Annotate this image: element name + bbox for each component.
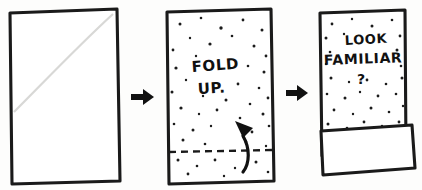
fold-up-diagram: FOLD UP. [0, 0, 422, 190]
panel-2-text-line-2: UP. [197, 79, 226, 98]
right-arrow-icon-2 [286, 85, 308, 101]
diagram-canvas: FOLD UP. [0, 0, 422, 190]
panel-1-sheet-outline [10, 9, 120, 184]
arrow-2-group [286, 85, 308, 101]
panel-2-fold-up-sheet: FOLD UP. [167, 9, 274, 184]
panel-2-text-line-1: FOLD [191, 55, 240, 76]
panel-3-folded-flap [321, 125, 415, 175]
panel-3-text-line-1: LOOK [344, 31, 387, 48]
panel-1-blank-sheet [10, 9, 120, 184]
panel-3-folded-sheet: LOOK FAMILIAR ? [320, 10, 415, 175]
panel-3-text-line-3: ? [357, 71, 366, 87]
right-arrow-icon [131, 89, 154, 105]
arrow-1-group [131, 89, 154, 105]
panel-3-text-line-2: FAMILIAR [324, 49, 403, 68]
